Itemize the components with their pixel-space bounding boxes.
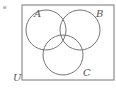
venn-diagram: e A B C U	[0, 0, 116, 90]
question-marker: e	[3, 3, 7, 10]
set-b-label: B	[95, 8, 103, 19]
set-c-label: C	[83, 67, 91, 78]
set-a-label: A	[33, 8, 41, 19]
universe-label: U	[13, 72, 22, 83]
